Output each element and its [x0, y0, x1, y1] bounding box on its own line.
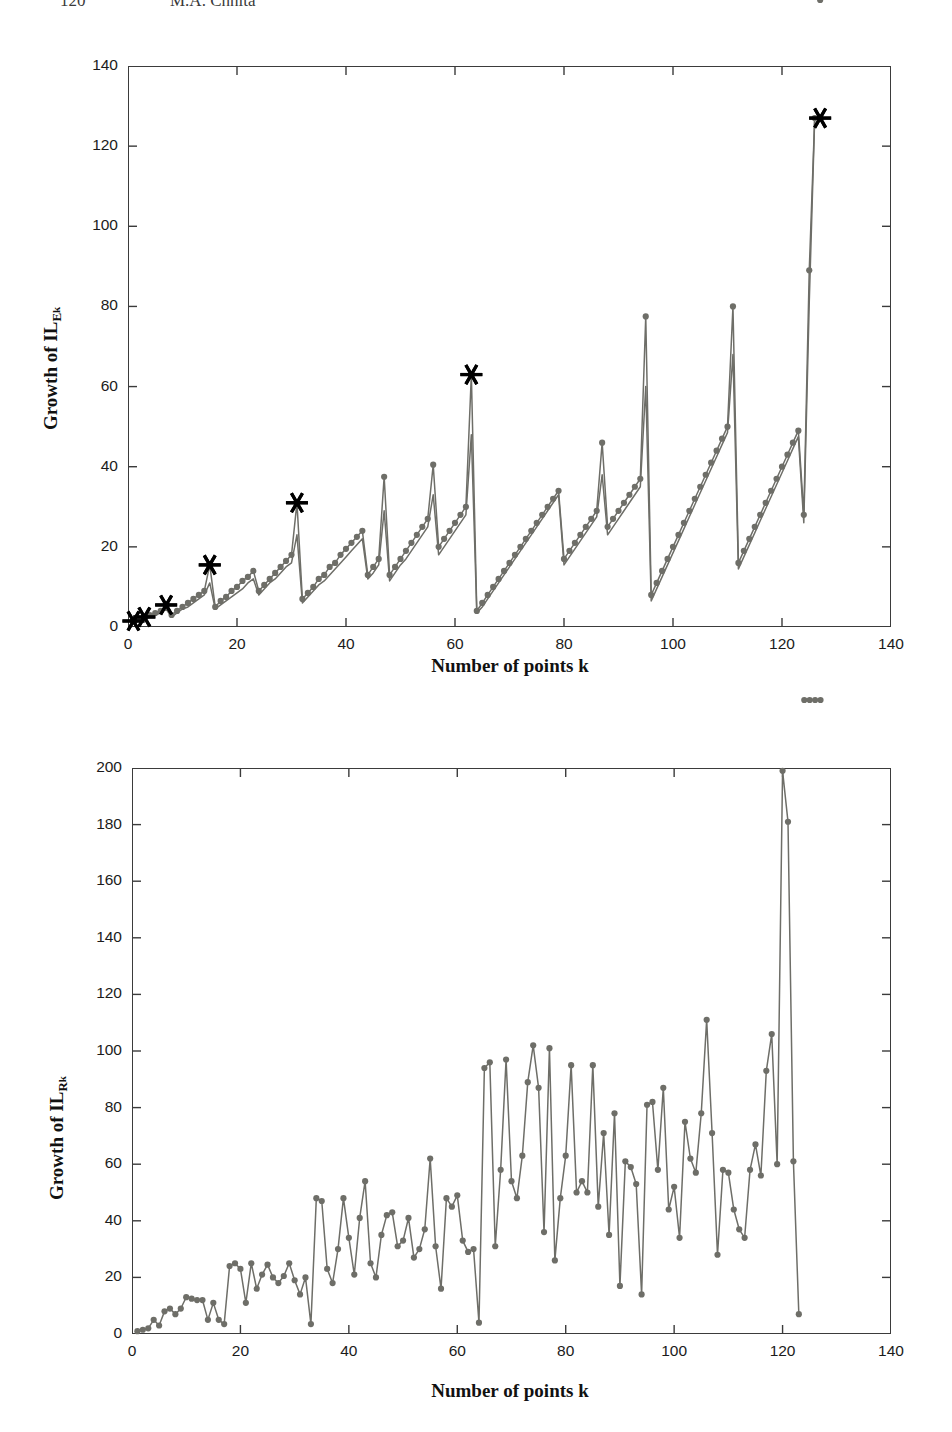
figure-bottom: Growth of ILRk Number of points k 020406… [0, 700, 952, 1432]
x-tick-label: 140 [861, 1342, 921, 1360]
y-tick-label: 100 [68, 216, 118, 234]
x-tick-label: 60 [427, 1342, 487, 1360]
y-tick-label: 200 [72, 758, 122, 776]
x-tick-label: 100 [644, 1342, 704, 1360]
plot-canvas-bottom [0, 700, 952, 1432]
x-tick-label: 80 [534, 635, 594, 653]
y-tick-label: 80 [72, 1098, 122, 1116]
x-tick-label: 0 [102, 1342, 162, 1360]
x-tick-label: 20 [210, 1342, 270, 1360]
star-marker [199, 555, 221, 574]
x-tick-label: 120 [753, 1342, 813, 1360]
y-tick-label: 0 [68, 617, 118, 635]
y-tick-label: 120 [68, 136, 118, 154]
figure-top: Growth of ILEk Number of points k 020406… [0, 0, 952, 700]
y-tick-label: 20 [72, 1267, 122, 1285]
x-tick-label: 100 [643, 635, 703, 653]
x-axis-label-top: Number of points k [260, 655, 760, 677]
y-tick-label: 140 [72, 928, 122, 946]
y-tick-label: 120 [72, 984, 122, 1002]
x-tick-label: 40 [316, 635, 376, 653]
y-tick-label: 20 [68, 537, 118, 555]
x-tick-label: 0 [98, 635, 158, 653]
x-axis-label-bottom: Number of points k [260, 1380, 760, 1402]
y-tick-label: 40 [72, 1211, 122, 1229]
y-tick-label: 60 [68, 377, 118, 395]
plot-canvas-top [0, 0, 952, 700]
x-tick-label: 80 [536, 1342, 596, 1360]
y-tick-label: 180 [72, 815, 122, 833]
x-tick-label: 20 [207, 635, 267, 653]
y-tick-label: 40 [68, 457, 118, 475]
y-tick-label: 100 [72, 1041, 122, 1059]
x-tick-label: 60 [425, 635, 485, 653]
y-tick-label: 60 [72, 1154, 122, 1172]
y-tick-label: 160 [72, 871, 122, 889]
y-tick-label: 140 [68, 56, 118, 74]
x-tick-label: 140 [861, 635, 921, 653]
document-page: 120 M.A. Chhita Growth of ILEk Number of… [0, 0, 952, 1432]
x-tick-label: 120 [752, 635, 812, 653]
x-tick-label: 40 [319, 1342, 379, 1360]
y-tick-label: 80 [68, 296, 118, 314]
star-marker [809, 109, 831, 128]
y-tick-label: 0 [72, 1324, 122, 1342]
